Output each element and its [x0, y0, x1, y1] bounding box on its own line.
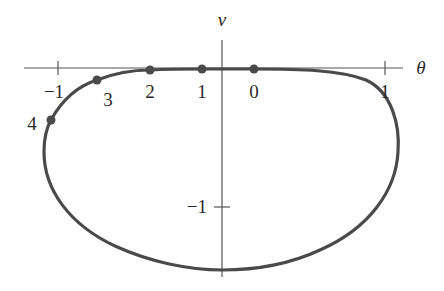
x-tick-label-1: 1 — [380, 81, 390, 102]
point-1-label: 1 — [197, 81, 207, 102]
phase-plane-diagram: 0 1 2 3 4 −1 1 −1 θ v — [0, 0, 444, 291]
point-4-label: 4 — [27, 113, 37, 134]
point-3-marker — [93, 76, 102, 85]
point-2-label: 2 — [145, 81, 155, 102]
point-0-label: 0 — [249, 81, 259, 102]
point-0-marker — [250, 65, 259, 74]
point-2-marker — [146, 66, 155, 75]
x-tick-label-neg1: −1 — [44, 81, 64, 102]
point-3-label: 3 — [103, 89, 113, 110]
point-1-marker — [198, 65, 207, 74]
y-tick-label-neg1: −1 — [187, 196, 207, 217]
trajectory-curve — [44, 69, 398, 270]
point-4-marker — [47, 116, 56, 125]
theta-axis-label: θ — [416, 57, 425, 78]
v-axis-label: v — [218, 9, 227, 30]
